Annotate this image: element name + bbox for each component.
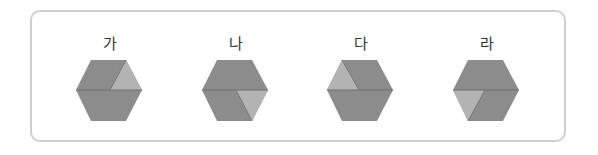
figure-label: 가	[60, 32, 160, 53]
figure-label: 나	[186, 32, 286, 53]
hexagon-icon	[452, 58, 522, 124]
figure-ga: 가	[60, 0, 160, 155]
figure-na: 나	[186, 0, 286, 155]
hexagon-icon	[201, 58, 271, 124]
hexagon-icon	[75, 58, 145, 124]
figure-label: 다	[311, 32, 411, 53]
figure-label: 라	[437, 32, 537, 53]
figure-ra: 라	[437, 0, 537, 155]
figure-da: 다	[311, 0, 411, 155]
hexagon-icon	[326, 58, 396, 124]
